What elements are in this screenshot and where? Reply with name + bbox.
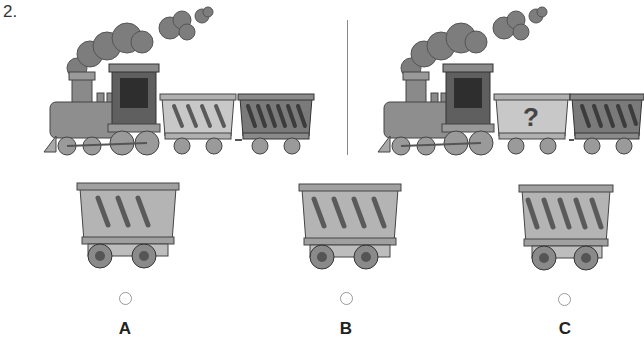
option-b-label: B bbox=[336, 319, 356, 339]
wagon-dark-5-sticks bbox=[570, 94, 644, 154]
option-a-label: A bbox=[115, 319, 135, 339]
wagon-light-4-sticks bbox=[160, 94, 236, 154]
option-a-wagon[interactable] bbox=[76, 180, 180, 270]
left-train bbox=[42, 6, 327, 158]
option-c-wagon[interactable] bbox=[518, 182, 614, 272]
option-a-radio[interactable] bbox=[119, 292, 132, 305]
wagon-dark-6-sticks bbox=[238, 94, 314, 154]
question-number: 2. bbox=[3, 2, 17, 22]
right-train: ? bbox=[376, 6, 644, 158]
option-b-radio[interactable] bbox=[340, 292, 353, 305]
divider bbox=[347, 20, 348, 155]
option-b-wagon[interactable] bbox=[298, 181, 402, 271]
option-c-radio[interactable] bbox=[558, 293, 571, 306]
option-c-label: C bbox=[555, 319, 575, 339]
question-mark: ? bbox=[523, 102, 539, 133]
